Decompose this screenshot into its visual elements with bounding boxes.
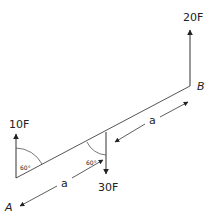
dimension-arrow-right-2 [160, 102, 188, 117]
point-b-label: B [197, 80, 205, 93]
angle-arc-mid [87, 142, 106, 155]
dimension-arrow-left [20, 186, 57, 206]
beam [16, 86, 190, 178]
force-30f-label: 30F [98, 181, 118, 194]
angle-arc-a [16, 148, 42, 164]
point-a-label: A [4, 201, 13, 214]
dimension-label-a1: a [61, 177, 68, 190]
dimension-label-a2: a [149, 114, 156, 127]
beam-diagram: 10F 60° 20F B 30F 60° a a A [0, 0, 217, 219]
dimension-arrow-right [115, 124, 145, 142]
force-20f-label: 20F [183, 11, 203, 24]
force-10f-label: 10F [9, 118, 29, 131]
angle-label-a: 60° [20, 164, 31, 171]
